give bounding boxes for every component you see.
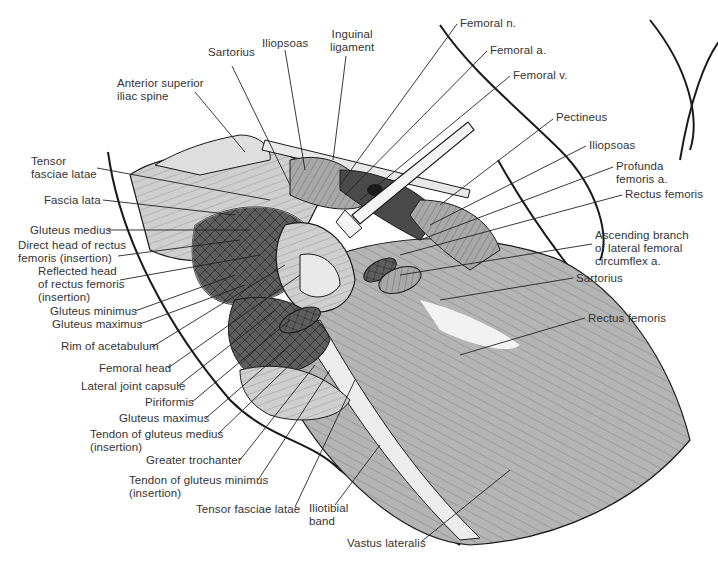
label-femoral-vein: Femoral v. (513, 69, 567, 82)
label-pectineus: Pectineus (556, 111, 607, 124)
label-femoral-head: Femoral head (99, 362, 171, 375)
label-profunda-femoris: Profunda femoris a. (616, 160, 668, 186)
label-fascia-lata: Fascia lata (44, 194, 101, 207)
label-sartorius-top: Sartorius (208, 46, 255, 59)
label-reflected-head-rectus-femoris: Reflected head of rectus femoris (insert… (38, 265, 125, 304)
label-femoral-artery: Femoral a. (490, 44, 546, 57)
label-vastus-lateralis: Vastus lateralis (347, 537, 426, 550)
label-gluteus-maximus-lower: Gluteus maximus (119, 412, 209, 425)
label-ascending-branch-lfca: Ascending branch of lateral femoral circ… (595, 229, 689, 268)
label-tensor-fasciae-latae-left: Tensor fasciae latae (31, 155, 97, 181)
label-direct-head-rectus-femoris: Direct head of rectus femoris (insertion… (18, 239, 126, 265)
label-gluteus-minimus: Gluteus minimus (50, 305, 137, 318)
label-greater-trochanter: Greater trochanter (146, 454, 242, 467)
label-tendon-gluteus-medius: Tendon of gluteus medius (insertion) (90, 428, 223, 454)
label-piriformis: Piriformis (145, 396, 194, 409)
label-iliopsoas-right: Iliopsoas (589, 139, 635, 152)
label-iliopsoas-top: Iliopsoas (262, 37, 308, 50)
hip-anatomy-figure: Sartorius Iliopsoas Inguinal ligament An… (0, 0, 718, 571)
label-rectus-femoris-upper: Rectus femoris (625, 188, 703, 201)
label-sartorius-right: Sartorius (576, 272, 623, 285)
label-rectus-femoris-lower: Rectus femoris (588, 312, 666, 325)
label-rim-of-acetabulum: Rim of acetabulum (61, 340, 159, 353)
label-anterior-superior-iliac-spine: Anterior superior iliac spine (117, 77, 204, 103)
label-lateral-joint-capsule: Lateral joint capsule (81, 380, 185, 393)
label-inguinal-ligament: Inguinal ligament (330, 28, 374, 54)
label-tendon-gluteus-minimus: Tendon of gluteus minimus (insertion) (129, 474, 268, 500)
label-iliotibial-band: Iliotibial band (309, 502, 348, 528)
label-gluteus-maximus-upper: Gluteus maximus (52, 318, 142, 331)
label-tensor-fasciae-latae-bottom: Tensor fasciae latae (196, 503, 300, 516)
label-femoral-nerve: Femoral n. (460, 17, 516, 30)
label-gluteus-medius: Gluteus medius (30, 224, 111, 237)
